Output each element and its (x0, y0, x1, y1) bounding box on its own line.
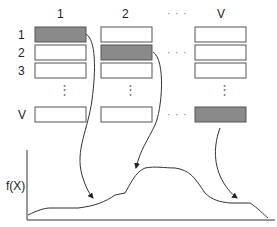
column-1-boxes (35, 27, 86, 122)
row-label-2: 2 (18, 47, 25, 59)
column-label-1: 1 (57, 8, 64, 20)
row-ellipsis-col-2: ⋮ (124, 82, 138, 97)
row-label-1: 1 (18, 29, 25, 41)
diagram-canvas (0, 0, 277, 227)
axes (27, 150, 275, 220)
row-ellipsis-col-v: ⋮ (218, 82, 232, 97)
column-ellipsis: · · · (167, 8, 188, 19)
row-ellipsis-col-1: ⋮ (58, 82, 72, 97)
column-label-v: V (217, 8, 225, 20)
arrow-v (215, 128, 237, 198)
column-v-boxes (195, 27, 246, 122)
y-axis-label: f(X) (6, 180, 25, 192)
row-label-3: 3 (18, 65, 25, 77)
function-curve (28, 167, 268, 218)
column-label-2: 2 (122, 8, 129, 20)
row-label-v: V (18, 109, 26, 121)
column-2-boxes (101, 27, 152, 122)
row-2-ellipsis: · · · (167, 47, 188, 58)
row-v-ellipsis: · · · (167, 109, 188, 120)
